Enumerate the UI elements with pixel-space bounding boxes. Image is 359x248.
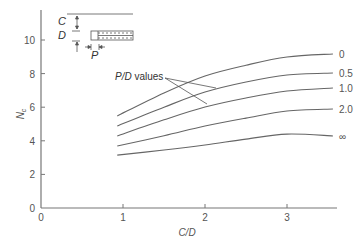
chart: 0246810 0123 C/D Nc 00.51.02.0∞ P/D valu… [0, 0, 359, 248]
y-tick-label: 0 [29, 203, 35, 214]
y-tick-label: 8 [29, 69, 35, 80]
pd-values-annotation: P/D values [115, 71, 163, 82]
x-tick-label: 3 [284, 212, 290, 223]
series-line [117, 54, 333, 116]
x-tick-label: 2 [202, 212, 208, 223]
y-tick-label: 10 [24, 35, 36, 46]
x-ticks: 0123 [38, 204, 290, 223]
inset-label-p: P [91, 49, 99, 61]
series-label: 1.0 [339, 83, 353, 94]
y-ticks: 0246810 [24, 35, 45, 214]
series-labels: 00.51.02.0∞ [339, 49, 353, 142]
x-axis-label: C/D [178, 227, 195, 238]
inset-label-d: D [58, 29, 66, 41]
x-tick-label: 0 [38, 212, 44, 223]
series-label: 0.5 [339, 68, 353, 79]
series-line [117, 134, 333, 155]
x-tick-label: 1 [120, 212, 126, 223]
data-series [117, 54, 333, 155]
series-line [117, 88, 333, 136]
series-label: 2.0 [339, 104, 353, 115]
inset-schematic [67, 14, 133, 52]
y-tick-label: 4 [29, 136, 35, 147]
y-tick-label: 6 [29, 102, 35, 113]
series-line [117, 109, 333, 146]
series-label: 0 [339, 49, 345, 60]
inset-label-c: C [58, 15, 66, 27]
y-axis-label: Nc [15, 108, 27, 119]
series-label: ∞ [339, 131, 346, 142]
y-tick-label: 2 [29, 169, 35, 180]
